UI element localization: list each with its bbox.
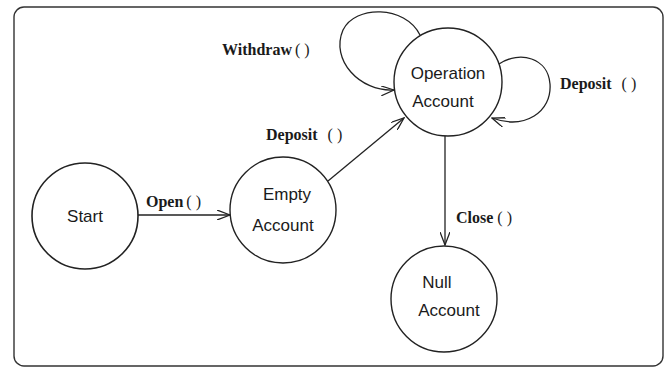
state-diagram: Start Empty Account Operation Account Nu… [0, 0, 669, 375]
state-null-label-line1: Null [422, 273, 451, 292]
transition-close-label: Close( ) [456, 209, 512, 227]
state-empty-label-line1: Empty [263, 185, 312, 204]
transition-deposit-self-loop [492, 57, 550, 122]
state-null-account: Null Account [391, 246, 497, 352]
diagram-frame [14, 7, 663, 366]
state-start: Start [32, 163, 138, 269]
transition-deposit-self-label: Deposit( ) [560, 75, 636, 93]
state-operation-account: Operation Account [394, 28, 502, 136]
state-empty-label-line2: Account [252, 216, 314, 235]
state-operation-label-line2: Account [412, 92, 474, 111]
transition-withdraw-loop [340, 12, 420, 90]
transition-open-label: Open( ) [146, 193, 201, 211]
state-empty-account: Empty Account [230, 157, 336, 263]
state-null-label-line2: Account [418, 301, 480, 320]
state-operation-label-line1: Operation [411, 64, 486, 83]
state-start-label: Start [67, 207, 103, 226]
transition-deposit-label: Deposit( ) [266, 126, 342, 144]
transition-withdraw-label: Withdraw( ) [222, 41, 310, 59]
